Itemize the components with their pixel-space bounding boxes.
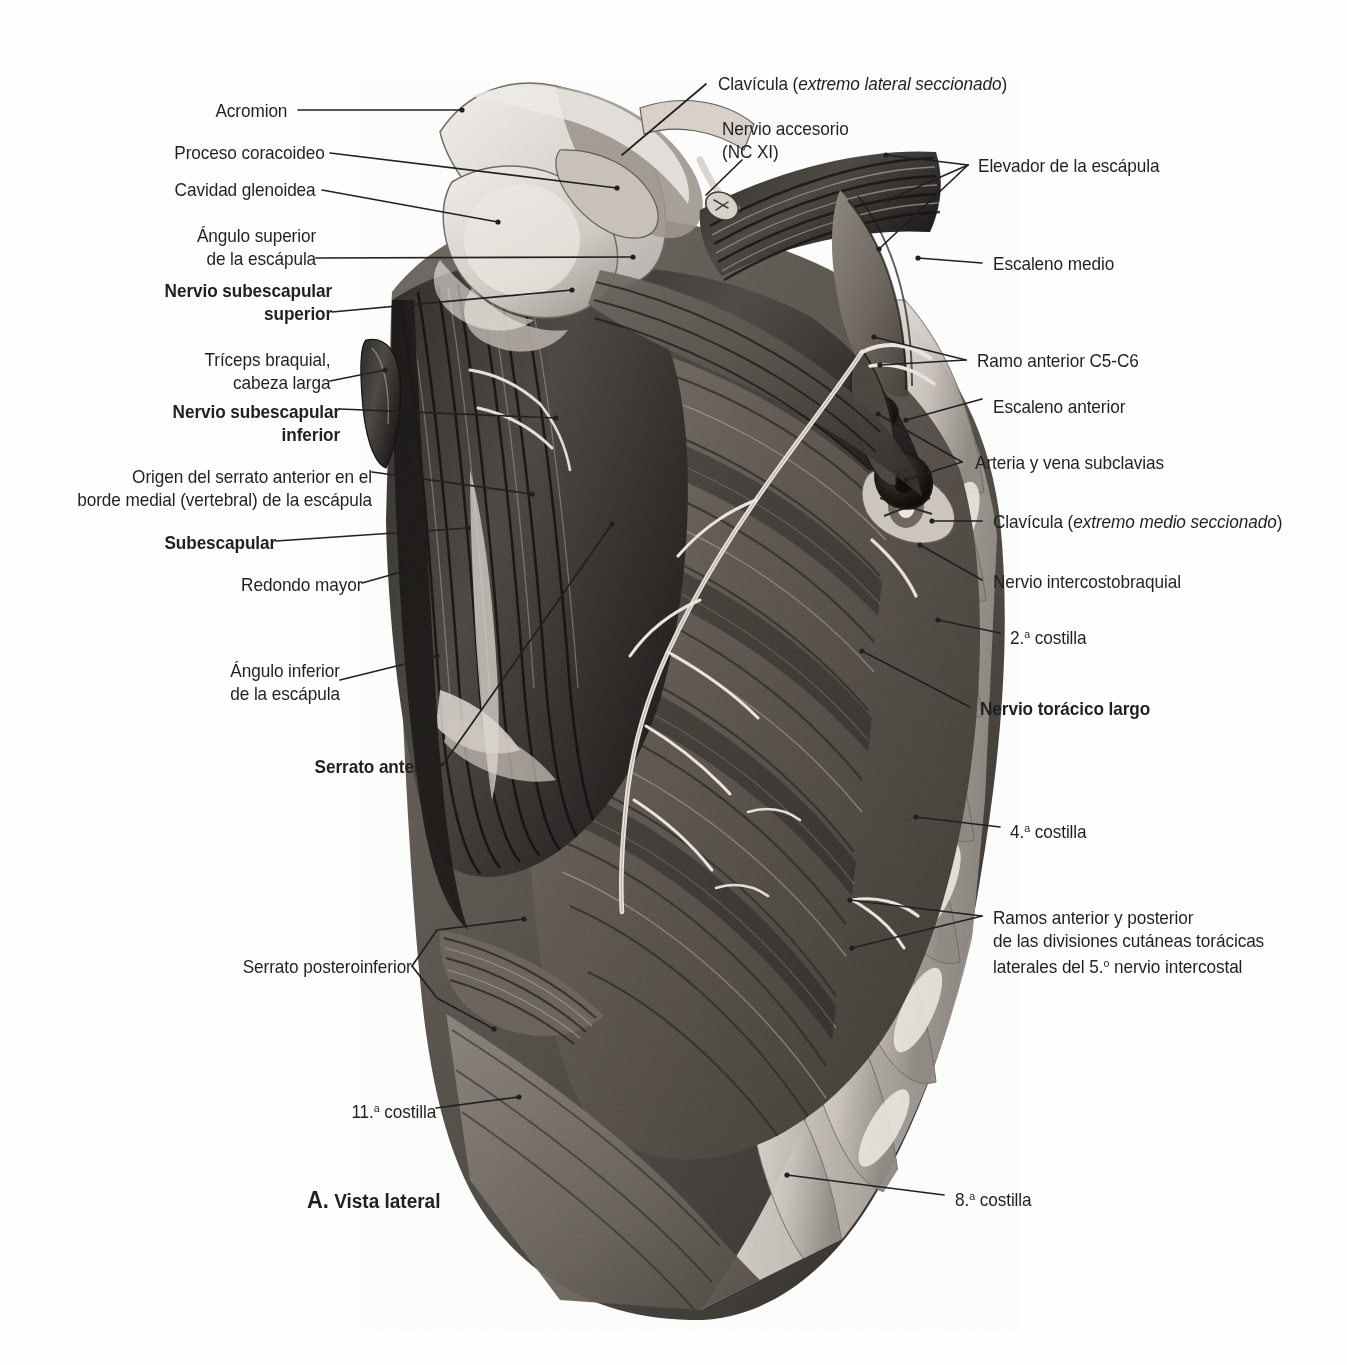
label-clavicula-medial: Clavícula (extremo medio seccionado) [993,510,1282,533]
label-nervio-accesorio: Nervio accesorio(NC XI) [722,117,849,163]
label-costilla-11: 11.a costilla [351,1097,436,1123]
label-elevador-escapula: Elevador de la escápula [978,154,1160,177]
label-subescapular: Subescapular [164,531,276,554]
label-proceso-coracoideo: Proceso coracoideo [175,141,325,164]
label-nervio-subescapular-inferior: Nervio subescapularinferior [173,400,340,446]
label-escaleno-anterior: Escaleno anterior [993,395,1125,418]
label-nervio-toracico-largo: Nervio torácico largo [980,697,1150,720]
label-costilla-4: 4.a costilla [1010,817,1087,843]
label-acromion: Acromion [215,99,287,122]
label-triceps-braquial-cabeza-larga: Tríceps braquial,cabeza larga [204,348,330,394]
label-clavicula-lateral: Clavícula (extremo lateral seccionado) [718,72,1007,95]
label-costilla-2: 2.a costilla [1010,623,1087,649]
label-redondo-mayor: Redondo mayor [241,573,362,596]
label-costilla-8: 8.a costilla [955,1185,1032,1211]
label-nervio-subescapular-superior: Nervio subescapularsuperior [165,279,332,325]
label-nervio-intercostobraquial: Nervio intercostobraquial [993,570,1181,593]
figure-caption: A. Vista lateral [307,1187,440,1214]
anatomy-figure: Acromion Proceso coracoideo Cavidad glen… [0,0,1347,1365]
label-cavidad-glenoidea: Cavidad glenoidea [175,178,316,201]
lateral-thorax-illustration [0,0,1347,1365]
label-arteria-vena-subclavias: Arteria y vena subclavias [975,451,1164,474]
label-ramo-anterior-c5-c6: Ramo anterior C5-C6 [977,349,1139,372]
label-angulo-inferior-escapula: Ángulo inferiorde la escápula [230,659,340,705]
label-serrato-posteroinferior: Serrato posteroinferior [243,955,412,978]
label-ramos-cutaneos-5-intercostal: Ramos anterior y posteriorde las divisio… [993,906,1264,978]
label-escaleno-medio: Escaleno medio [993,252,1114,275]
label-origen-serrato-anterior: Origen del serrato anterior en elborde m… [77,465,372,511]
label-serrato-anterior: Serrato anterior [314,755,442,778]
label-angulo-superior-escapula: Ángulo superiorde la escápula [197,224,316,270]
